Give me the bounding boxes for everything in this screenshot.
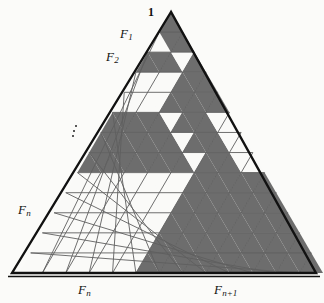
figure-root: 1F1F2FnFnFn+1 <box>0 0 324 303</box>
label-f2-subscript: 2 <box>114 55 119 65</box>
fibonacci-triangle-figure <box>0 0 324 303</box>
triangle-grid-cells <box>19 12 323 273</box>
label-fnplus1-bottom-text: F <box>214 282 222 297</box>
label-fn-bottom: Fn <box>78 283 91 298</box>
label-fn-bottom-subscript: n <box>86 288 91 298</box>
label-f2: F2 <box>106 50 119 65</box>
label-fnplus1-bottom: Fn+1 <box>214 283 237 298</box>
label-fn-left-subscript: n <box>26 208 31 218</box>
apex-label-one: 1 <box>148 6 154 18</box>
label-fn-left-text: F <box>18 202 26 217</box>
vertical-ellipsis-icon <box>72 125 77 140</box>
label-f1: F1 <box>120 27 133 42</box>
label-fnplus1-bottom-subscript: n+1 <box>222 288 237 298</box>
label-f2-text: F <box>106 49 114 64</box>
label-fn-bottom-text: F <box>78 282 86 297</box>
label-f1-text: F <box>120 26 128 41</box>
label-fn-left: Fn <box>18 203 31 218</box>
apex-label-one-text: 1 <box>148 5 154 19</box>
label-f1-subscript: 1 <box>128 32 133 42</box>
